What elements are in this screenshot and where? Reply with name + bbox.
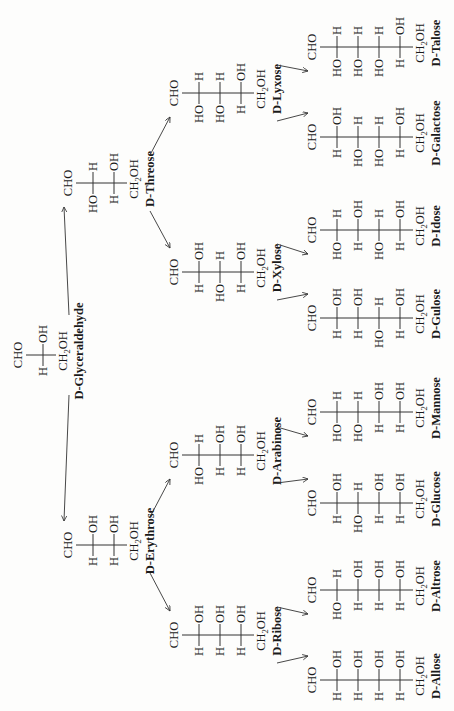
lyxose-cho-group: CHO [167, 80, 181, 106]
glyceraldehyde-right-substituent: OH [36, 325, 50, 343]
talose-right-substituent: H [372, 26, 386, 35]
galactose-name-label: D-Galactose [429, 100, 443, 166]
glucose-left-substituent: HO [351, 515, 365, 533]
arabinose-left-substituent: HO [192, 467, 206, 485]
mannose-left-substituent: H [372, 424, 386, 433]
arabinose-left-substituent: H [213, 467, 227, 476]
xylose-right-substituent: OH [234, 242, 248, 260]
xylose-right-substituent: OH [192, 242, 206, 260]
gulose-right-substituent: OH [393, 288, 407, 306]
glucose-left-substituent: H [372, 515, 386, 524]
talose-left-substituent: H [393, 59, 407, 68]
galactose-right-substituent: OH [330, 107, 344, 125]
mannose-cho-group: CHO [305, 399, 319, 425]
xylose-name-label: D-Xylose [270, 243, 284, 292]
mannose-right-substituent: OH [393, 382, 407, 400]
lyxose-name-label: D-Lyxose [270, 64, 284, 114]
altrose-right-substituent: OH [372, 560, 386, 578]
gulose-ch2oh-group: CH2OH [413, 294, 429, 334]
idose-right-substituent: OH [393, 200, 407, 218]
arrow-lyxose-to-galactose [277, 113, 308, 121]
idose-right-substituent: OH [351, 200, 365, 218]
altrose-right-substituent: H [330, 569, 344, 578]
erythrose-right-substituent: OH [107, 515, 121, 533]
arrow-glyceraldehyde-to-erythrose [64, 395, 69, 521]
erythrose-right-substituent: OH [86, 515, 100, 533]
arrow-ribose-to-allose [277, 656, 308, 663]
allose-left-substituent: H [330, 692, 344, 701]
glyceraldehyde-name-label: D-Glyceraldehyde [72, 302, 86, 400]
xylose-left-substituent: HO [213, 284, 227, 302]
galactose-left-substituent: HO [372, 149, 386, 167]
arabinose-right-substituent: OH [234, 425, 248, 443]
erythrose-left-substituent: H [107, 557, 121, 566]
allose-left-substituent: H [393, 692, 407, 701]
arabinose-left-substituent: H [234, 467, 248, 476]
allose-cho-group: CHO [305, 667, 319, 693]
arabinose-right-substituent: H [192, 434, 206, 443]
glucose-right-substituent: OH [330, 473, 344, 491]
arrow-threose-to-lyxose [150, 117, 170, 155]
arabinose-name-label: D-Arabinose [270, 417, 284, 486]
ribose-left-substituent: H [234, 647, 248, 656]
talose-left-substituent: HO [372, 59, 386, 77]
ribose-left-substituent: H [213, 647, 227, 656]
allose-right-substituent: OH [330, 650, 344, 668]
mannose-left-substituent: H [393, 424, 407, 433]
galactose-left-substituent: H [330, 149, 344, 158]
altrose-left-substituent: H [351, 602, 365, 611]
idose-left-substituent: H [351, 242, 365, 251]
mannose-right-substituent: OH [372, 382, 386, 400]
gulose-left-substituent: H [351, 330, 365, 339]
arabinose-ch2oh-group: CH2OH [254, 431, 270, 471]
aldose-family-diagram: CHOHOHCH2OHD-GlyceraldehydeCHOHOHHOHCH2O… [0, 0, 454, 711]
idose-left-substituent: HO [372, 242, 386, 260]
galactose-left-substituent: HO [351, 149, 365, 167]
arrow-glyceraldehyde-to-threose [64, 207, 69, 315]
gulose-right-substituent: OH [351, 288, 365, 306]
gulose-left-substituent: H [393, 330, 407, 339]
arrow-threose-to-xylose [150, 211, 170, 248]
threose-left-substituent: HO [86, 195, 100, 213]
xylose-left-substituent: H [234, 284, 248, 293]
lyxose-left-substituent: H [234, 105, 248, 114]
idose-left-substituent: HO [330, 242, 344, 260]
arabinose-right-substituent: OH [213, 425, 227, 443]
glucose-name-label: D-Glucose [429, 471, 443, 527]
talose-right-substituent: H [330, 26, 344, 35]
diagram-canvas: CHOHOHCH2OHD-GlyceraldehydeCHOHOHHOHCH2O… [0, 0, 454, 711]
xylose-right-substituent: H [213, 251, 227, 260]
erythrose-ch2oh-group: CH2OH [127, 521, 143, 561]
xylose-cho-group: CHO [167, 259, 181, 285]
allose-left-substituent: H [372, 692, 386, 701]
altrose-cho-group: CHO [305, 577, 319, 603]
threose-ch2oh-group: CH2OH [127, 159, 143, 199]
allose-name-label: D-Allose [429, 653, 443, 699]
lyxose-right-substituent: H [213, 72, 227, 81]
galactose-left-substituent: H [393, 149, 407, 158]
ribose-name-label: D-Ribose [270, 606, 284, 656]
allose-ch2oh-group: CH2OH [413, 656, 429, 696]
talose-left-substituent: HO [330, 59, 344, 77]
allose-right-substituent: OH [372, 650, 386, 668]
glucose-right-substituent: OH [393, 473, 407, 491]
lyxose-ch2oh-group: CH2OH [254, 69, 270, 109]
altrose-left-substituent: H [372, 602, 386, 611]
xylose-ch2oh-group: CH2OH [254, 248, 270, 288]
lyxose-right-substituent: OH [234, 63, 248, 81]
allose-right-substituent: OH [393, 650, 407, 668]
threose-cho-group: CHO [61, 170, 75, 196]
erythrose-name-label: D-Erythrose [143, 507, 157, 574]
ribose-right-substituent: OH [213, 605, 227, 623]
mannose-left-substituent: HO [330, 424, 344, 442]
ribose-right-substituent: OH [192, 605, 206, 623]
altrose-left-substituent: H [393, 602, 407, 611]
galactose-right-substituent: OH [393, 107, 407, 125]
mannose-right-substituent: H [330, 391, 344, 400]
arrow-xylose-to-gulose [277, 294, 308, 300]
lyxose-left-substituent: HO [192, 105, 206, 123]
threose-left-substituent: H [107, 195, 121, 204]
gulose-left-substituent: H [330, 330, 344, 339]
glyceraldehyde-left-substituent: H [36, 367, 50, 376]
gulose-name-label: D-Gulose [429, 289, 443, 339]
